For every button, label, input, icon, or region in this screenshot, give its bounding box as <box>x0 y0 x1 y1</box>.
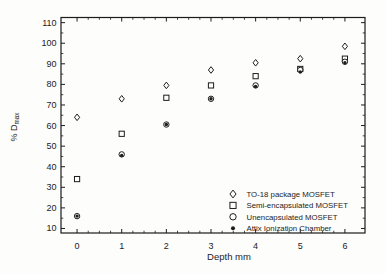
data-point-square <box>74 176 79 181</box>
data-point-diamond <box>298 55 303 62</box>
x-axis-label: Depth mm <box>207 251 251 262</box>
x-tick-label: 2 <box>164 241 169 251</box>
y-tick-label: 90 <box>46 59 56 69</box>
data-point-square <box>119 131 124 136</box>
data-point-square <box>164 95 169 100</box>
legend-marker-diamond <box>230 190 236 198</box>
data-point-dot <box>120 154 123 157</box>
data-point-dot <box>165 123 168 126</box>
y-tick-label: 30 <box>46 182 56 192</box>
x-tick-label: 6 <box>342 241 347 251</box>
legend-label: Attix Ionization Chamber <box>247 224 332 233</box>
x-tick-label: 0 <box>75 241 80 251</box>
data-point-dot <box>254 85 257 88</box>
data-point-dot <box>209 97 212 100</box>
data-point-diamond <box>253 59 258 66</box>
legend-label: TO-18 package MOSFET <box>247 190 335 199</box>
chart-canvas: 1020304050607080901001100123456Depth mm%… <box>0 0 386 274</box>
data-point-diamond <box>119 96 124 103</box>
data-point-square <box>253 74 258 79</box>
data-point-diamond <box>342 43 347 50</box>
legend-marker-circle <box>230 214 236 220</box>
y-tick-label: 110 <box>42 18 56 28</box>
y-tick-label: 50 <box>46 141 56 151</box>
y-axis-label: % Dmax <box>9 112 20 142</box>
y-tick-label: 100 <box>41 38 56 48</box>
x-tick-label: 5 <box>298 241 303 251</box>
legend-label: Semi-encapsulated MOSFET <box>247 201 349 210</box>
data-point-diamond <box>164 82 169 89</box>
y-tick-label: 40 <box>46 162 56 172</box>
data-point-diamond <box>208 67 213 74</box>
data-point-dot <box>299 70 302 73</box>
data-point-dot <box>75 214 78 217</box>
x-tick-label: 1 <box>119 241 124 251</box>
x-tick-label: 4 <box>253 241 258 251</box>
legend-label: Unencapsulated MOSFET <box>247 213 338 222</box>
scatter-chart-figure: 1020304050607080901001100123456Depth mm%… <box>0 0 386 274</box>
data-point-diamond <box>74 114 79 121</box>
legend-marker-dot <box>231 226 235 230</box>
y-tick-label: 60 <box>46 121 56 131</box>
legend-marker-square <box>230 202 236 208</box>
y-tick-label: 20 <box>46 203 56 213</box>
y-tick-label: 80 <box>46 79 56 89</box>
y-tick-label: 10 <box>46 223 56 233</box>
y-tick-label: 70 <box>46 100 56 110</box>
data-point-square <box>208 83 213 88</box>
x-tick-label: 3 <box>208 241 213 251</box>
data-point-dot <box>343 61 346 64</box>
